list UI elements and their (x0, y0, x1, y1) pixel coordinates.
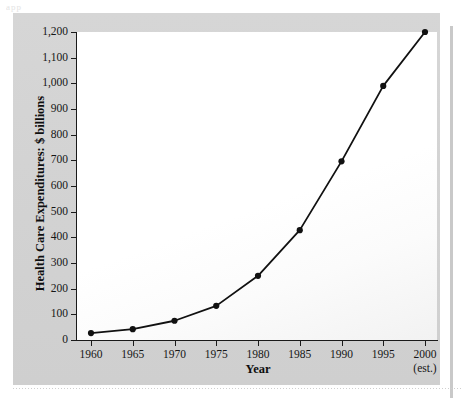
y-tick-mark (71, 135, 76, 136)
y-tick-mark (71, 109, 76, 110)
y-tick-label: 1,200 (26, 26, 68, 38)
x-tick-mark (91, 341, 92, 346)
y-axis-line (76, 32, 77, 341)
x-tick-mark (300, 341, 301, 346)
x-tick-mark (133, 341, 134, 346)
x-axis-title: Year (128, 362, 388, 377)
plot-area-background (77, 32, 437, 340)
y-tick-mark (71, 340, 76, 341)
y-tick-mark (71, 186, 76, 187)
panel-right-edge (450, 26, 453, 398)
y-tick-label-wrap: 1,200 (20, 26, 68, 38)
x-tick-label: 2000 (395, 348, 455, 360)
figure-container: app 01002003004005006007008009001,0001,1… (0, 0, 475, 402)
y-tick-mark (71, 83, 76, 84)
x-tick-mark (258, 341, 259, 346)
x-tick-mark (342, 341, 343, 346)
x-tick-mark (383, 341, 384, 346)
y-tick-mark (71, 314, 76, 315)
y-tick-mark (71, 289, 76, 290)
y-tick-mark (71, 32, 76, 33)
bottom-dotted-rule (13, 388, 461, 389)
y-tick-mark (71, 160, 76, 161)
y-tick-mark (71, 263, 76, 264)
y-tick-mark (71, 237, 76, 238)
x-tick-mark (216, 341, 217, 346)
x-tick-mark (175, 341, 176, 346)
y-tick-mark (71, 58, 76, 59)
y-tick-mark (71, 212, 76, 213)
y-axis-title: Health Care Expenditures: $ billions (33, 44, 48, 344)
x-tick-mark (425, 341, 426, 346)
scan-artifact: app (6, 1, 40, 13)
x-tick-sublabel: (est.) (395, 362, 455, 374)
